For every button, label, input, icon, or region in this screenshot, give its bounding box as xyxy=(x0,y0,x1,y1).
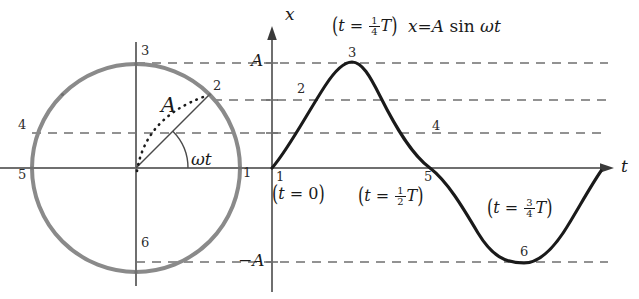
t-symbol: t xyxy=(338,16,344,35)
fraction-three-quarters: 34 xyxy=(524,198,534,220)
t-symbol: t xyxy=(493,198,499,217)
time-annotation-half-period: (t = 12T) xyxy=(358,186,424,208)
wave-label-3: 3 xyxy=(348,46,356,59)
equation-amplitude: A xyxy=(432,16,444,36)
circle-label-2: 2 xyxy=(213,79,221,92)
paren-open: ( xyxy=(358,185,364,207)
wave-label-5: 5 xyxy=(424,170,432,183)
paren-close: ) xyxy=(546,197,552,219)
paren-close: ) xyxy=(391,15,397,37)
amplitude-negative-label: −A xyxy=(238,252,265,269)
circle-label-3: 3 xyxy=(141,44,149,57)
angle-arc xyxy=(173,131,188,168)
wave-label-6: 6 xyxy=(520,245,528,258)
wave-label-2: 2 xyxy=(297,82,305,95)
paren-close: ) xyxy=(318,183,324,205)
shm-circle-and-sine-figure: 1 2 3 4 5 6 A ωt x t A −A 1 2 3 4 5 6 x=… xyxy=(0,0,639,299)
equation-equals: = xyxy=(418,16,432,36)
circle-label-5: 5 xyxy=(18,168,26,181)
reference-circle-group xyxy=(0,42,272,286)
wave-axes xyxy=(266,26,614,292)
x-axis-arrowhead xyxy=(267,26,277,40)
wave-label-4: 4 xyxy=(432,119,440,132)
sine-curve xyxy=(272,62,601,263)
circle-label-1: 1 xyxy=(243,166,251,179)
amplitude-positive-label: A xyxy=(251,52,263,69)
equation-argument: ωt xyxy=(480,16,501,36)
fraction-one-half: 12 xyxy=(395,186,405,208)
x-axis-label: x xyxy=(285,6,295,23)
time-annotation-t0: (t = 0) xyxy=(272,186,325,202)
t-axis-label: t xyxy=(621,158,628,175)
circle-point-3 xyxy=(134,62,137,65)
circle-point-6 xyxy=(134,270,137,273)
paren-close: ) xyxy=(417,185,423,207)
period-symbol: T xyxy=(407,186,418,205)
circle-label-4: 4 xyxy=(18,118,26,131)
paren-open: ( xyxy=(487,197,493,219)
t-symbol: t xyxy=(364,186,370,205)
circle-point-2 xyxy=(208,93,211,96)
time-annotation-quarter-period: (t = 14T) xyxy=(332,16,398,38)
angle-omega-t-label: ωt xyxy=(191,151,212,168)
circle-point-4 xyxy=(61,93,64,96)
equation-lhs: x xyxy=(408,16,418,36)
time-annotation-three-quarter-period: (t = 34T) xyxy=(487,198,553,220)
fraction-one-quarter: 14 xyxy=(369,16,379,38)
t-symbol: t xyxy=(278,184,284,203)
equation-function: sin xyxy=(450,16,475,36)
radius-amplitude-label: A xyxy=(161,95,176,116)
circle-point-5 xyxy=(30,166,33,169)
circle-point-1 xyxy=(238,166,241,169)
figure-canvas xyxy=(0,0,639,299)
circle-label-6: 6 xyxy=(141,236,149,249)
equation-label: x=A sin ωt xyxy=(408,18,501,35)
period-symbol: T xyxy=(536,198,547,217)
period-symbol: T xyxy=(381,16,392,35)
paren-open: ( xyxy=(332,15,338,37)
paren-open: ( xyxy=(272,183,278,205)
